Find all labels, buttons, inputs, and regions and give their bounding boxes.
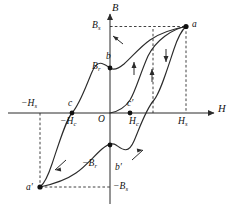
hysteresis-figure: B H O Bs Br −Br −Bs −Hs −Hc Hc Hs a a′ b…	[0, 0, 237, 213]
label-neg-bs: −Bs	[113, 182, 128, 192]
point-b-prime	[108, 143, 113, 148]
label-point-b: b	[106, 52, 111, 62]
point-a-prime	[37, 184, 42, 189]
hysteresis-curves	[40, 27, 186, 188]
label-hs: Hs	[178, 117, 187, 127]
label-point-a: a	[192, 20, 197, 30]
arrow-up-left-upper	[113, 36, 123, 44]
arrow-up-initial-curve	[132, 62, 137, 75]
initial-magnetization-curve	[110, 27, 186, 114]
label-neg-br: −Br	[82, 159, 97, 169]
ascending-branch	[40, 27, 186, 188]
arrow-up-ascending	[150, 69, 155, 82]
descending-branch	[40, 27, 186, 188]
axes-group	[8, 14, 214, 204]
origin-label: O	[98, 115, 105, 125]
label-hc: Hc	[129, 117, 139, 127]
point-a	[183, 24, 188, 29]
label-point-b-prime: b′	[115, 163, 122, 173]
label-neg-hs: −Hs	[21, 99, 37, 109]
arrow-up-right-lower	[132, 149, 143, 161]
guide-lines	[40, 27, 186, 188]
axis-label-b: B	[112, 3, 118, 14]
label-point-c: c	[68, 99, 72, 109]
point-c	[70, 111, 75, 116]
label-point-c-prime: c′	[127, 99, 133, 109]
label-point-a-prime: a′	[26, 183, 33, 193]
label-bs: Bs	[92, 21, 100, 31]
axis-label-h: H	[218, 104, 226, 115]
arrow-down-descending-right	[164, 49, 169, 62]
label-neg-hc: −Hc	[60, 117, 76, 127]
label-br: Br	[92, 62, 100, 72]
arrow-down-left-lower	[55, 160, 66, 172]
point-b	[108, 66, 113, 71]
point-c-prime	[128, 111, 133, 116]
